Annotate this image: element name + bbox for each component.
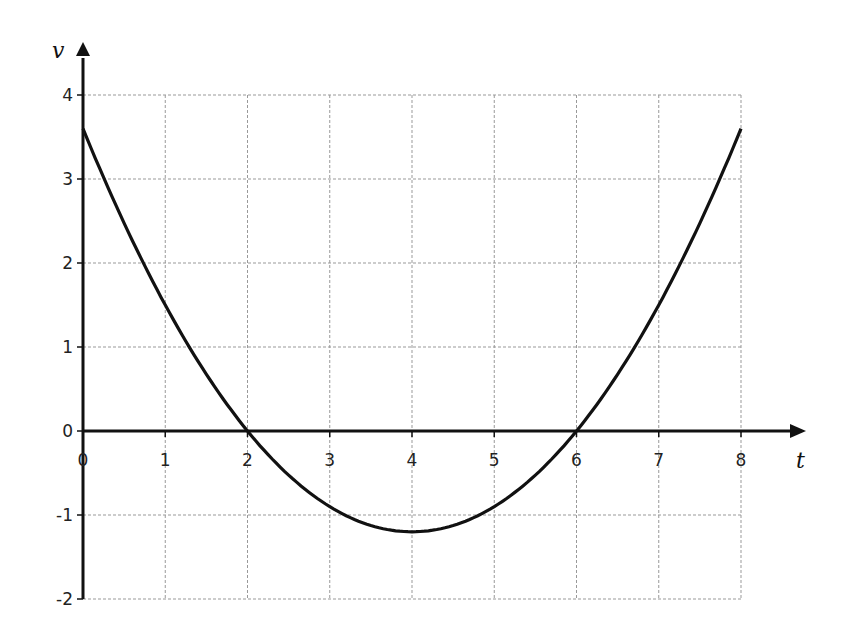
x-tick-label: 5 <box>489 450 500 470</box>
x-tick-label: 3 <box>324 450 335 470</box>
y-tick-label: 3 <box>62 169 73 189</box>
x-axis-label: t <box>796 448 805 473</box>
velocity-time-chart: -2-101234012345678 t v <box>0 0 844 636</box>
y-tick-label: 4 <box>62 85 73 105</box>
y-axis-label: v <box>52 38 65 63</box>
y-axis-arrow-icon <box>76 42 90 56</box>
x-tick-label: 0 <box>78 450 89 470</box>
y-tick-label: -1 <box>56 505 73 525</box>
x-axis-arrow-icon <box>790 424 806 438</box>
x-tick-label: 2 <box>242 450 253 470</box>
grid-lines <box>83 95 741 599</box>
y-tick-label: -2 <box>56 589 73 609</box>
x-tick-label: 1 <box>160 450 171 470</box>
x-tick-label: 7 <box>653 450 664 470</box>
x-tick-label: 4 <box>407 450 418 470</box>
y-tick-label: 2 <box>62 253 73 273</box>
y-tick-label: 1 <box>62 337 73 357</box>
x-tick-label: 6 <box>571 450 582 470</box>
x-tick-label: 8 <box>736 450 747 470</box>
y-tick-label: 0 <box>62 421 73 441</box>
